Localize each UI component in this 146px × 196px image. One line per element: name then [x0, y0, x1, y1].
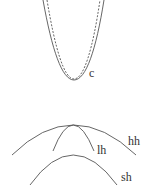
label-c: c [89, 66, 94, 80]
curve-c-solid [43, 0, 104, 80]
label-hh: hh [128, 134, 140, 148]
curve-lh [53, 125, 94, 151]
curves-diagram: c hh lh sh [0, 0, 146, 196]
curve-hh [12, 125, 136, 155]
label-sh: sh [121, 170, 132, 184]
label-lh: lh [97, 143, 106, 157]
curve-sh [30, 155, 117, 185]
